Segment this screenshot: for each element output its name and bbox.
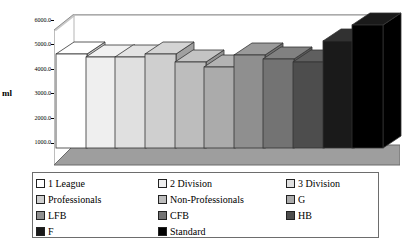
bar-g — [204, 55, 235, 148]
y-tick-label-1000: 1000.0 — [14, 139, 51, 145]
legend-row: ProfessionalsNon-ProfessionalsG — [36, 191, 378, 207]
bar-professionals — [145, 42, 176, 148]
legend-label-hb: HB — [298, 210, 312, 221]
legend-label-cfb: CFB — [170, 210, 189, 221]
legend-item-standard[interactable]: Standard — [158, 226, 286, 237]
legend-item-lfb[interactable]: LFB — [36, 210, 158, 221]
legend-swatch-cfb — [158, 211, 167, 220]
legend-item-non-professionals[interactable]: Non-Professionals — [158, 194, 286, 205]
legend-row: LFBCFBHB — [36, 207, 378, 223]
legend-row: 1 League2 Division3 Division — [36, 175, 378, 191]
legend-item-professionals[interactable]: Professionals — [36, 194, 158, 205]
y-axis-title: ml — [2, 88, 12, 98]
legend-label-1-league: 1 League — [48, 178, 85, 189]
y-tick-label-3000: 3000.0 — [14, 90, 51, 96]
legend-swatch-standard — [158, 227, 167, 236]
legend-row: FStandard — [36, 223, 378, 239]
y-tick-label-4000: 4000.0 — [14, 66, 51, 72]
legend-swatch-1-league — [36, 179, 45, 188]
bar-cfb — [263, 47, 294, 148]
legend-label-non-professionals: Non-Professionals — [170, 194, 244, 205]
y-tick-label-5000: 5000.0 — [14, 41, 51, 47]
legend-swatch-lfb — [36, 211, 45, 220]
legend-swatch-non-professionals — [158, 195, 167, 204]
bar-2-division — [86, 45, 117, 148]
legend-swatch-3-division — [286, 179, 295, 188]
y-axis-tick-labels: 6000.0 5000.0 4000.0 3000.0 2000.0 1000.… — [14, 0, 51, 180]
legend-label-f: F — [48, 226, 54, 237]
bar-standard — [352, 13, 383, 148]
bar-f — [323, 29, 354, 148]
chart-legend: 1 League2 Division3 DivisionProfessional… — [32, 172, 379, 238]
legend-label-standard: Standard — [170, 226, 206, 237]
legend-swatch-g — [286, 195, 295, 204]
legend-swatch-hb — [286, 211, 295, 220]
bar-series — [54, 14, 400, 168]
legend-item-1-league[interactable]: 1 League — [36, 178, 158, 189]
bar-hb — [293, 50, 324, 148]
legend-label-2-division: 2 Division — [170, 178, 212, 189]
legend-label-professionals: Professionals — [48, 194, 101, 205]
legend-item-hb[interactable]: HB — [286, 210, 376, 221]
bar-non-professionals — [175, 50, 206, 148]
legend-swatch-2-division — [158, 179, 167, 188]
y-tick-label-2000: 2000.0 — [14, 115, 51, 121]
legend-swatch-f — [36, 227, 45, 236]
legend-label-3-division: 3 Division — [298, 178, 340, 189]
legend-label-lfb: LFB — [48, 210, 66, 221]
legend-item-f[interactable]: F — [36, 226, 158, 237]
y-tick-label-6000: 6000.0 — [14, 17, 51, 23]
plot-area — [54, 14, 400, 168]
legend-swatch-professionals — [36, 195, 45, 204]
bar-lfb — [234, 43, 265, 148]
legend-item-g[interactable]: G — [286, 194, 376, 205]
bar-3-division — [115, 45, 146, 148]
bar-chart: ml 6000.0 5000.0 4000.0 3000.0 2000.0 10… — [0, 0, 411, 241]
legend-item-cfb[interactable]: CFB — [158, 210, 286, 221]
bar-1-league — [56, 42, 87, 148]
legend-label-g: G — [298, 194, 305, 205]
legend-item-3-division[interactable]: 3 Division — [286, 178, 376, 189]
legend-item-2-division[interactable]: 2 Division — [158, 178, 286, 189]
